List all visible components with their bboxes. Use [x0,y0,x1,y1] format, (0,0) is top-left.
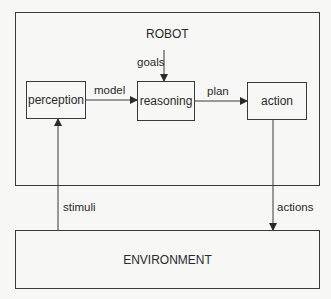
stimuli-label: stimuli [63,201,96,213]
action-label: action [261,94,293,108]
reasoning-node: reasoning [137,81,195,121]
reasoning-label: reasoning [140,94,193,108]
perception-label: perception [28,93,84,107]
perception-node: perception [26,81,86,119]
model-label: model [94,84,125,96]
environment-box: ENVIRONMENT [15,230,320,289]
action-node: action [247,82,307,120]
goals-label: goals [137,56,165,68]
actions-label: actions [277,201,313,213]
plan-label: plan [207,85,229,97]
environment-label: ENVIRONMENT [123,253,212,267]
robot-label: ROBOT [146,27,189,41]
